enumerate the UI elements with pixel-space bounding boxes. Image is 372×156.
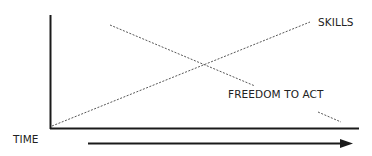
skills-line bbox=[52, 22, 310, 126]
freedom-line bbox=[110, 25, 255, 86]
freedom-line-tail bbox=[318, 112, 341, 122]
freedom-to-act-label: FREEDOM TO ACT bbox=[228, 88, 324, 100]
time-arrow-head-icon bbox=[340, 139, 353, 148]
time-label: TIME bbox=[13, 133, 39, 145]
skills-label: SKILLS bbox=[318, 16, 354, 28]
diagram-canvas bbox=[0, 0, 372, 156]
